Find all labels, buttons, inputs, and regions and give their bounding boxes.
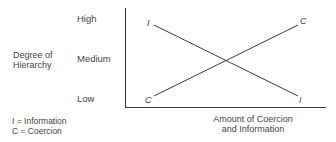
- coercion-end-marker: C: [300, 16, 307, 26]
- information-start-marker: I: [147, 18, 150, 28]
- x-axis-title-line2: and Information: [187, 124, 319, 134]
- information-end-marker: I: [299, 95, 302, 105]
- legend: I = Information C = Coercion: [12, 117, 67, 136]
- x-axis-title-line1: Amount of Coercion: [187, 114, 319, 124]
- coercion-start-marker: C: [145, 95, 152, 105]
- x-axis-title: Amount of Coercion and Information: [187, 114, 319, 134]
- legend-coercion: C = Coercion: [12, 127, 67, 137]
